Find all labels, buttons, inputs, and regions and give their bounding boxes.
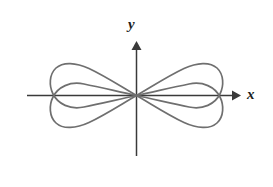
- lemniscate-figure: y x: [0, 0, 273, 187]
- y-axis-arrowhead: [132, 41, 142, 50]
- figure-canvas: [0, 0, 273, 187]
- y-axis-label: y: [128, 17, 135, 32]
- x-axis-arrowhead: [232, 91, 241, 101]
- x-axis-label: x: [247, 87, 255, 102]
- axes-group: [27, 41, 241, 156]
